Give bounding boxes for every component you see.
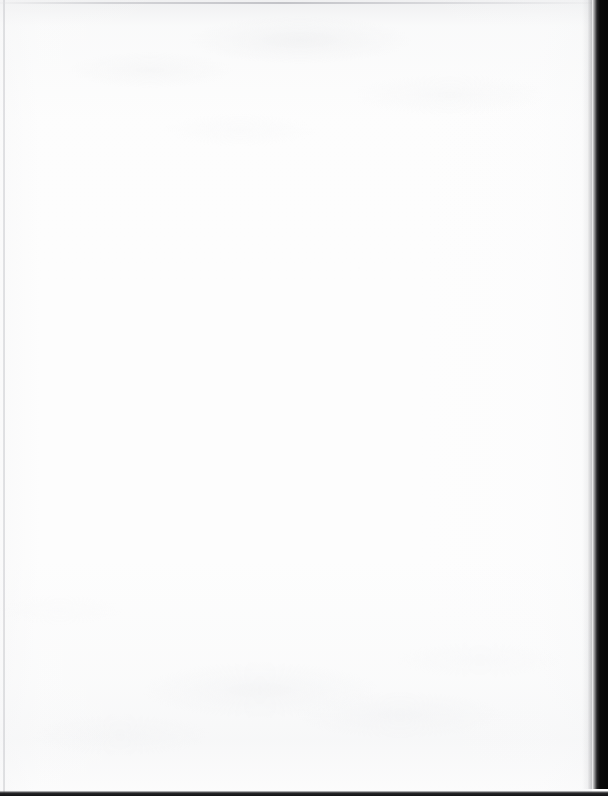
right-gutter-band xyxy=(592,0,608,789)
paper-sheet xyxy=(0,0,592,796)
scanned-page-canvas xyxy=(0,0,608,796)
page-content-area xyxy=(0,0,592,789)
